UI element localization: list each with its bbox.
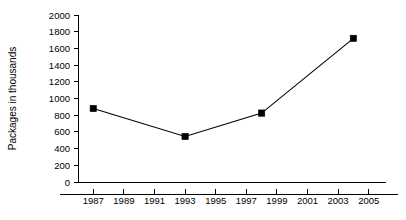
x-tick-label: 2001	[297, 195, 318, 206]
x-tick-label: 2003	[328, 195, 349, 206]
data-point-marker	[182, 133, 188, 139]
y-tick-label: 400	[54, 143, 70, 154]
y-axis-title: Packages in thousands	[7, 47, 18, 150]
data-point-marker	[90, 105, 96, 111]
chart-canvas: 0200400600800100012001400160018002000198…	[0, 0, 406, 220]
x-tick-label: 1995	[205, 195, 226, 206]
y-tick-label: 200	[54, 160, 70, 171]
x-tick-label: 1999	[266, 195, 287, 206]
series-line-packages	[93, 38, 353, 136]
y-tick-label: 1200	[49, 76, 70, 87]
y-tick-label: 1000	[49, 93, 70, 104]
x-tick-label: 1993	[175, 195, 196, 206]
x-tick-label: 2005	[358, 195, 379, 206]
x-tick-label: 1989	[113, 195, 134, 206]
y-tick-label: 800	[54, 110, 70, 121]
y-tick-label: 0	[65, 177, 70, 188]
data-point-marker	[350, 35, 356, 41]
line-chart: 0200400600800100012001400160018002000198…	[0, 0, 406, 220]
x-tick-label: 1997	[236, 195, 257, 206]
x-tick-label: 1991	[144, 195, 165, 206]
y-tick-label: 2000	[49, 10, 70, 21]
y-tick-label: 1600	[49, 43, 70, 54]
y-tick-label: 1800	[49, 26, 70, 37]
data-point-marker	[258, 110, 264, 116]
x-tick-label: 1987	[83, 195, 104, 206]
y-tick-label: 600	[54, 126, 70, 137]
y-tick-label: 1400	[49, 60, 70, 71]
